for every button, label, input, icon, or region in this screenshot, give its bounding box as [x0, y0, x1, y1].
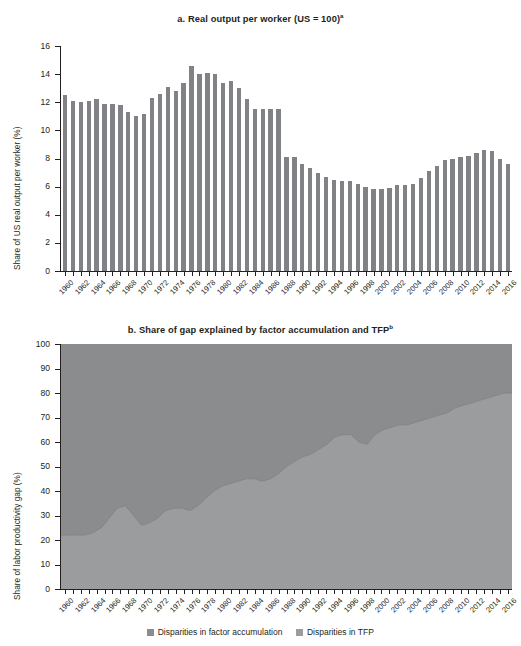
panel-b-y-tick-label: 100 [18, 340, 50, 349]
x-tick-mark [160, 272, 161, 276]
legend-swatch-icon [296, 629, 303, 636]
x-tick-mark [81, 590, 82, 594]
bar [435, 166, 439, 271]
bar [87, 101, 91, 271]
x-tick-mark [358, 272, 359, 276]
x-tick-mark [381, 272, 382, 276]
bar [443, 160, 447, 271]
panel-a-y-tick-label: 6 [20, 182, 50, 191]
x-tick-mark [374, 272, 375, 276]
bar [174, 91, 178, 271]
bar [387, 188, 391, 271]
x-tick-mark [397, 272, 398, 276]
panel-b-y-tick-label: 70 [18, 413, 50, 422]
bar [482, 150, 486, 271]
x-tick-mark [105, 590, 106, 594]
x-tick-mark [389, 590, 390, 594]
bar [506, 164, 510, 271]
legend-item[interactable]: Disparities in TFP [296, 627, 373, 637]
bar [332, 180, 336, 271]
x-tick-mark [350, 272, 351, 276]
bar [158, 94, 162, 271]
bar [229, 81, 233, 271]
x-tick-mark [461, 590, 462, 594]
bar [268, 109, 272, 271]
panel-a-title-superscript: a [340, 12, 344, 19]
x-tick-mark [263, 590, 264, 594]
x-tick-mark [207, 590, 208, 594]
bar [118, 105, 122, 271]
bar [253, 109, 257, 271]
bar [363, 187, 367, 271]
panel-a-y-tick-label: 8 [20, 154, 50, 163]
x-tick-mark [97, 590, 98, 594]
x-tick-mark [468, 590, 469, 594]
legend-item-label: Disparities in TFP [307, 627, 374, 637]
panel-b-y-tick-label: 40 [18, 487, 50, 496]
x-tick-mark [421, 272, 422, 276]
x-tick-mark [192, 590, 193, 594]
x-tick-mark [318, 590, 319, 594]
x-tick-mark [152, 272, 153, 276]
x-tick-mark [239, 590, 240, 594]
x-tick-mark [405, 590, 406, 594]
bar [276, 109, 280, 271]
x-tick-mark [413, 272, 414, 276]
x-tick-mark [73, 272, 74, 276]
x-tick-mark [461, 272, 462, 276]
x-tick-mark [500, 590, 501, 594]
bar [181, 83, 185, 271]
bar [213, 74, 217, 271]
x-tick-mark [247, 272, 248, 276]
x-tick-mark [199, 590, 200, 594]
bar [79, 102, 83, 271]
panel-b-plot-area [61, 344, 512, 589]
x-tick-mark [128, 272, 129, 276]
bar [221, 83, 225, 271]
x-tick-mark [294, 590, 295, 594]
panel-b-title-text: b. Share of gap explained by factor accu… [128, 325, 389, 335]
bar [395, 185, 399, 271]
panel-a-y-tick-label: 4 [20, 210, 50, 219]
x-tick-mark [484, 590, 485, 594]
x-tick-mark [247, 590, 248, 594]
x-tick-mark [326, 272, 327, 276]
chart-legend: Disparities in factor accumulationDispar… [0, 627, 521, 637]
panel-share-of-gap: b. Share of gap explained by factor accu… [0, 310, 521, 646]
x-tick-mark [342, 272, 343, 276]
x-tick-mark [310, 590, 311, 594]
x-tick-mark [350, 590, 351, 594]
panel-real-output-per-worker: a. Real output per worker (US = 100)a Sh… [0, 0, 521, 310]
x-tick-mark [120, 272, 121, 276]
bar [205, 73, 209, 271]
bar [419, 178, 423, 271]
x-tick-mark [492, 272, 493, 276]
x-tick-mark [405, 272, 406, 276]
panel-a-y-tick-label: 0 [20, 267, 50, 276]
bar [316, 173, 320, 271]
x-tick-mark [294, 272, 295, 276]
x-tick-mark [413, 590, 414, 594]
x-tick-mark [184, 272, 185, 276]
x-tick-mark [271, 272, 272, 276]
x-tick-mark [334, 590, 335, 594]
x-tick-mark [453, 590, 454, 594]
x-tick-mark [136, 590, 137, 594]
bar [371, 189, 375, 271]
panel-b-y-tick-label: 90 [18, 364, 50, 373]
bar [142, 114, 146, 272]
x-tick-mark [223, 272, 224, 276]
x-tick-mark [112, 272, 113, 276]
legend-item[interactable]: Disparities in factor accumulation [147, 627, 282, 637]
x-tick-mark [279, 590, 280, 594]
x-tick-mark [287, 272, 288, 276]
x-tick-mark [255, 590, 256, 594]
panel-b-y-tick-label: 60 [18, 438, 50, 447]
x-tick-mark [429, 590, 430, 594]
bar [308, 168, 312, 271]
x-tick-mark [271, 590, 272, 594]
bar [126, 112, 130, 271]
bar [150, 98, 154, 271]
panel-a-y-tick-label: 14 [20, 70, 50, 79]
bar [71, 101, 75, 271]
